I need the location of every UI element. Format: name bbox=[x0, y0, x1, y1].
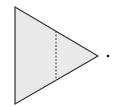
triangle-diagram bbox=[0, 0, 115, 107]
external-point bbox=[107, 55, 110, 58]
